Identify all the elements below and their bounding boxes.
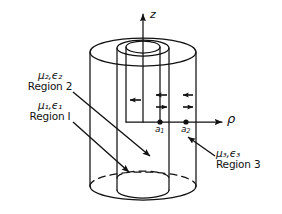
radius-label-a2: a2 [181, 125, 190, 135]
region-1-name-label: Region I [14, 111, 86, 122]
leader-arrow-region3 [188, 137, 215, 156]
leader-arrow-region1 [73, 122, 129, 172]
radius-label-a1: a1 [155, 125, 164, 135]
outer-cylinder-bottom-back-arc-hidden [90, 172, 196, 186]
middle-cylinder-bottom-back-arc-hidden [117, 171, 169, 178]
region-1-label-group: μ₁,ϵ₁ Region I [14, 100, 86, 122]
middle-cylinder-bottom-front-arc [117, 190, 169, 198]
region-3-name-label: Region 3 [216, 159, 280, 170]
radius-label-a1-sub: 1 [160, 127, 164, 135]
z-axis-label: z [150, 9, 156, 21]
region-2-label-group: μ₂,ϵ₂ Region 2 [14, 70, 86, 92]
field-arrows [130, 95, 193, 107]
rho-axis-label: ρ [227, 112, 235, 126]
leader-arrows [73, 92, 215, 172]
region-2-name-label: Region 2 [14, 81, 86, 92]
region-3-label-group: μ₃,ϵ₃ Region 3 [216, 148, 280, 170]
radius-label-a2-sub: 2 [186, 127, 190, 135]
